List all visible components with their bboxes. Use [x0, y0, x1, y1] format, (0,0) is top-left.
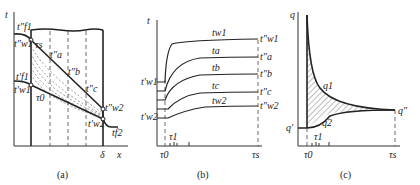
panel-c: q q′ q″ q1 q2 τ0 τ1 τs (c): [286, 9, 408, 181]
b-label-tw2: tw2: [212, 95, 226, 106]
a-y-axis-label: t: [5, 9, 8, 20]
a-label-tw2-initial: t′w2: [88, 118, 105, 129]
b-end-ta: t″a: [260, 51, 272, 62]
b-xtick-taus: τs: [252, 149, 260, 160]
b-y-axis-label: t: [147, 15, 150, 26]
b-xtick-tau0: τ0: [160, 149, 169, 160]
b-curve-tw2: [157, 106, 258, 118]
a-label-tc-final: t″c: [86, 83, 98, 94]
b-caption: (b): [197, 169, 209, 181]
b-xtick-tau1: τ1: [169, 131, 178, 142]
c-y-axis-label: q: [290, 9, 295, 20]
c-xtick-tau1: τ1: [314, 131, 323, 142]
a-label-tf1-initial: t′f1: [16, 71, 29, 82]
c-label-q1: q1: [323, 80, 333, 91]
c-caption: (c): [340, 169, 351, 181]
b-label-tb: tb: [212, 62, 220, 73]
a-label-tw2-final: t″w2: [105, 102, 124, 113]
b-start-tw1: t′w1: [141, 76, 158, 87]
b-end-tc: t″c: [260, 86, 272, 97]
c-label-q2: q2: [322, 117, 332, 128]
b-end-tb: t″b: [260, 68, 272, 79]
a-label-tb-final: t″b: [68, 66, 80, 77]
a-wall-top: [31, 29, 103, 31]
a-label-tf1-final: t″f1: [17, 21, 32, 32]
a-label-ta-final: t″a: [50, 49, 62, 60]
a-label-tw1-final: t″w1: [14, 38, 33, 49]
b-label-ta: ta: [212, 45, 220, 56]
c-xtick-tau0: τ0: [304, 149, 313, 160]
b-curve-tw1: [157, 39, 258, 82]
b-end-tw2: t″w2: [260, 100, 279, 111]
b-curve-tb: [157, 74, 258, 100]
b-label-tw1: tw1: [212, 27, 226, 38]
b-label-tc: tc: [212, 80, 220, 91]
a-delta-label: δ: [100, 149, 105, 160]
a-label-tau-0: τ0: [36, 92, 45, 103]
panel-b: t tw1 ta tb tc tw2 t″w1 t″a t″b t″c t″w2…: [141, 15, 279, 181]
a-label-tau-s: τs: [35, 39, 43, 50]
c-label-q-final: q″: [398, 105, 408, 116]
a-label-tw1-initial: t′w1: [14, 84, 31, 95]
a-x-axis-label: x: [116, 149, 122, 160]
figure-root: t x δ t″f1 t″w1 τs t″a: [0, 0, 420, 185]
panel-a: t x δ t″f1 t″w1 τs t″a: [5, 9, 128, 181]
a-label-tf2: tf2: [112, 127, 123, 138]
b-start-tw2: t′w2: [141, 111, 158, 122]
c-label-q-initial: q′: [286, 122, 294, 133]
c-xtick-taus: τs: [389, 149, 397, 160]
a-caption: (a): [57, 169, 68, 181]
b-end-tw1: t″w1: [260, 33, 279, 44]
